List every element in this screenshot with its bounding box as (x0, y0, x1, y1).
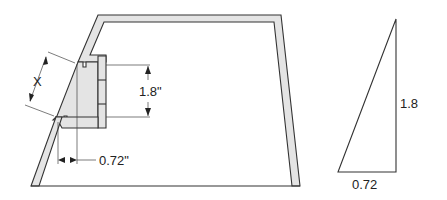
lower-left-wall (31, 117, 62, 186)
diagram-canvas: X 1.8" 0.72" 1.8 0.72 (0, 0, 447, 200)
step-post (98, 56, 106, 128)
x-extension-bottom (25, 105, 54, 116)
triangle-base-label: 0.72 (352, 177, 377, 192)
vertical-dimension-label: 1.8" (139, 84, 162, 99)
triangle-height-label: 1.8 (400, 96, 418, 111)
arrow-up-icon (145, 66, 151, 74)
arrow-down-icon (29, 93, 34, 102)
arrow-left-icon (58, 157, 65, 163)
arrow-up-icon (43, 56, 48, 65)
arrow-down-icon (145, 108, 151, 116)
right-triangle: 1.8 0.72 (338, 19, 418, 192)
x-extension-top (48, 52, 75, 63)
triangle-shape (338, 19, 396, 172)
horizontal-dimension-label: 0.72" (99, 153, 129, 168)
arrow-right-icon (70, 157, 77, 163)
step-inset (53, 62, 98, 120)
dimension-1-8: 1.8" (106, 65, 162, 117)
x-label: X (33, 74, 42, 89)
